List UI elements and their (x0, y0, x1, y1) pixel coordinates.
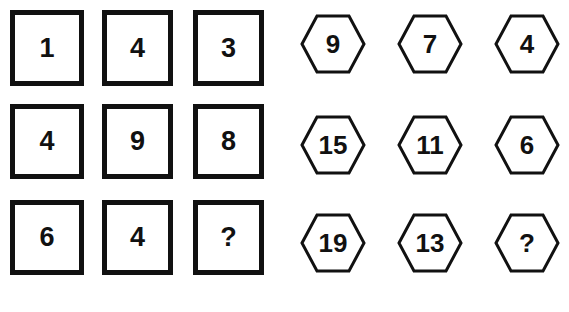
square-cell: 4 (10, 104, 84, 179)
hexagon-cell: 4 (494, 14, 560, 74)
hexagon-cell: 6 (494, 115, 560, 175)
square-cell: 8 (193, 104, 264, 179)
square-cell: 6 (10, 200, 84, 275)
hexagon-cell: 11 (397, 115, 463, 175)
hexagon-cell: 9 (300, 14, 366, 74)
hexagon-cell: 19 (300, 213, 366, 273)
hexagon-value: 7 (397, 14, 463, 74)
hexagon-value: 4 (494, 14, 560, 74)
square-cell: 4 (102, 200, 173, 275)
hexagon-value: 6 (494, 115, 560, 175)
square-cell: ? (193, 200, 264, 275)
hexagon-value: ? (494, 213, 560, 273)
hexagon-value: 11 (397, 115, 463, 175)
hexagon-cell: 7 (397, 14, 463, 74)
hexagon-value: 19 (300, 213, 366, 273)
hexagon-cell: 13 (397, 213, 463, 273)
square-cell: 1 (10, 10, 84, 86)
hexagon-value: 9 (300, 14, 366, 74)
hexagon-cell: 15 (300, 115, 366, 175)
hexagon-value: 15 (300, 115, 366, 175)
hexagon-cell: ? (494, 213, 560, 273)
square-cell: 3 (193, 10, 264, 86)
square-cell: 4 (102, 10, 173, 86)
square-cell: 9 (102, 104, 173, 179)
hexagon-value: 13 (397, 213, 463, 273)
